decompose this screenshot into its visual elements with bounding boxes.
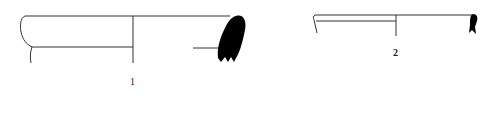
- profile-2-label: 2: [393, 47, 398, 58]
- section-2: [469, 14, 477, 34]
- section-1: [218, 16, 246, 62]
- profile-drawing: [0, 0, 497, 129]
- profile-1: [20, 16, 230, 63]
- profile-2: [313, 15, 472, 36]
- profile-1-label: 1: [130, 76, 135, 87]
